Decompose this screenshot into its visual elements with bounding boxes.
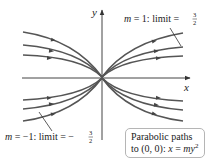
annotation-m-negative: m = −1: limit = − bbox=[5, 131, 74, 142]
caption-box: Parabolic paths to (0, 0): x = my2 bbox=[125, 128, 205, 158]
arrow-icon bbox=[47, 96, 52, 100]
curves-lower-left bbox=[23, 78, 102, 121]
annotation-m-negative-num: 3 bbox=[89, 129, 92, 136]
arrow-icon bbox=[156, 56, 161, 60]
y-axis-label: y bbox=[91, 6, 97, 18]
caption-line-1: Parabolic paths bbox=[131, 131, 200, 143]
curves-upper-right bbox=[102, 33, 183, 77]
leader-line-top bbox=[170, 28, 181, 46]
annotation-m-positive-den: 2 bbox=[193, 19, 196, 26]
curves-lower-right bbox=[102, 78, 183, 121]
direction-arrows bbox=[47, 38, 161, 117]
annotation-m-positive: m = 1: limit = bbox=[124, 13, 180, 24]
curves-upper-left bbox=[23, 32, 102, 77]
caption-line-2: to (0, 0): x = my2 bbox=[131, 143, 200, 155]
annotation-m-negative-den: 2 bbox=[89, 137, 92, 144]
annotation-m-positive-num: 3 bbox=[193, 11, 196, 18]
x-axis-label: x bbox=[183, 81, 189, 93]
